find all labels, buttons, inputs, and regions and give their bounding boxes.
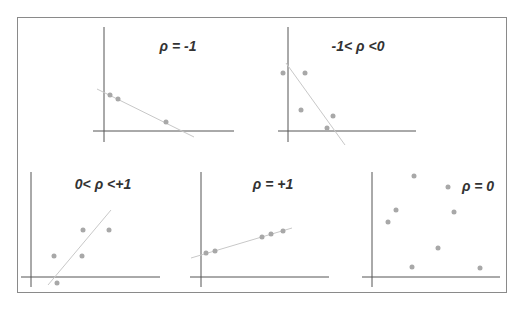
panel-rho-positive-partial: 0< ρ <+1 xyxy=(21,172,160,287)
data-point xyxy=(213,249,218,254)
data-point xyxy=(80,254,85,259)
panel-title: -1< ρ <0 xyxy=(332,38,385,54)
data-point xyxy=(164,120,169,125)
data-point xyxy=(52,254,57,259)
data-point xyxy=(394,208,399,213)
panel-title: ρ = 0 xyxy=(461,178,494,194)
data-point xyxy=(55,281,60,286)
data-point xyxy=(436,246,441,251)
data-point xyxy=(107,228,112,233)
panel-rho-negative-partial: -1< ρ <0 xyxy=(278,27,416,145)
fit-line xyxy=(48,210,111,285)
fit-line xyxy=(286,63,345,145)
data-point xyxy=(325,126,330,131)
data-point xyxy=(303,71,308,76)
data-point xyxy=(386,220,391,225)
panel-rho-zero: ρ = 0 xyxy=(362,172,500,287)
panel-title: ρ = -1 xyxy=(159,38,197,54)
data-point xyxy=(260,235,265,240)
data-point xyxy=(269,232,274,237)
data-point xyxy=(81,228,86,233)
data-point xyxy=(412,174,417,179)
data-point xyxy=(116,97,121,102)
data-points xyxy=(281,71,336,131)
data-point xyxy=(410,265,415,270)
data-point xyxy=(108,93,113,98)
data-point xyxy=(331,114,336,119)
panel-title: ρ = +1 xyxy=(252,176,294,192)
data-point xyxy=(204,251,209,256)
correlation-diagram: ρ = -1 -1< ρ <0 0< ρ <+1 ρ = +1 ρ = 0 xyxy=(0,0,522,309)
data-point xyxy=(452,210,457,215)
panel-rho-plus-one: ρ = +1 xyxy=(190,172,329,287)
data-point xyxy=(281,229,286,234)
data-point xyxy=(281,71,286,76)
data-point xyxy=(478,266,483,271)
panel-rho-minus-one: ρ = -1 xyxy=(93,27,234,142)
data-point xyxy=(299,108,304,113)
data-point xyxy=(446,185,451,190)
panel-title: 0< ρ <+1 xyxy=(75,176,132,192)
